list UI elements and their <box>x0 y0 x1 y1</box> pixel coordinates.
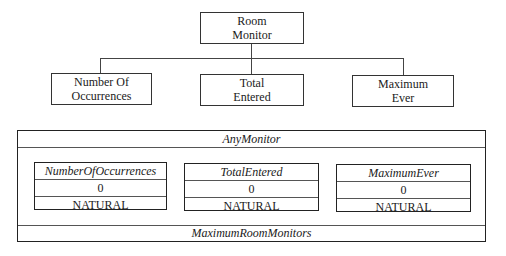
attribute-name: NumberOfOccurrences <box>35 163 166 179</box>
left-connector <box>100 58 101 73</box>
attribute-box-maximum-ever: MaximumEver 0 NATURAL <box>336 164 471 212</box>
child-node-line1: Maximum <box>378 77 428 91</box>
child-node-total-entered: Total Entered <box>200 74 304 106</box>
component-footer: MaximumRoomMonitors <box>18 226 485 241</box>
root-connector <box>251 44 252 74</box>
branch-line <box>100 58 404 59</box>
child-node-line2: Occurrences <box>72 89 132 103</box>
right-connector <box>403 58 404 75</box>
child-node-line2: Ever <box>392 91 415 105</box>
child-node-number-of-occurrences: Number Of Occurrences <box>51 73 152 105</box>
attribute-name: TotalEntered <box>185 164 318 180</box>
attribute-name: MaximumEver <box>337 165 470 181</box>
component-box-any-monitor: AnyMonitor NumberOfOccurrences 0 NATURAL… <box>17 130 486 242</box>
attribute-value: 0 <box>185 180 318 197</box>
attribute-type: NATURAL <box>185 197 318 214</box>
attribute-box-number-of-occurrences: NumberOfOccurrences 0 NATURAL <box>34 162 167 210</box>
attribute-value: 0 <box>35 179 166 196</box>
root-node-line1: Room <box>237 14 266 28</box>
attribute-type: NATURAL <box>337 198 470 215</box>
root-node-line2: Monitor <box>232 28 271 42</box>
child-node-line1: Total <box>240 76 265 90</box>
child-node-line1: Number Of <box>74 75 129 89</box>
root-node-room-monitor: Room Monitor <box>200 12 304 44</box>
component-title: AnyMonitor <box>18 131 485 147</box>
attribute-type: NATURAL <box>35 196 166 213</box>
attribute-box-total-entered: TotalEntered 0 NATURAL <box>184 163 319 211</box>
attribute-value: 0 <box>337 181 470 198</box>
child-node-maximum-ever: Maximum Ever <box>352 75 454 107</box>
title-separator <box>18 147 485 148</box>
child-node-line2: Entered <box>233 90 270 104</box>
